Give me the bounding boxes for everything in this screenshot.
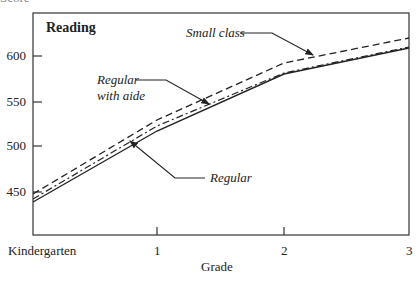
leader-small-class bbox=[240, 33, 313, 55]
x-tick-kindergarten: Kindergarten bbox=[8, 243, 76, 259]
x-axis-ticks bbox=[157, 227, 284, 235]
annotation-regular: Regular bbox=[210, 170, 252, 186]
x-axis-label: Grade bbox=[201, 259, 233, 275]
y-tick-600: 600 bbox=[7, 48, 27, 64]
annotation-small-class: Small class bbox=[186, 25, 245, 41]
annotation-regular-with-aide-line2: with aide bbox=[97, 88, 145, 104]
chart-canvas bbox=[0, 0, 419, 282]
x-tick-3: 3 bbox=[406, 243, 413, 259]
chart-title: Reading bbox=[46, 20, 96, 36]
x-tick-1: 1 bbox=[154, 243, 161, 259]
plot-frame bbox=[33, 13, 409, 235]
leader-regular bbox=[130, 141, 205, 178]
x-tick-2: 2 bbox=[281, 243, 288, 259]
annotation-regular-with-aide-line1: Regular bbox=[97, 72, 139, 88]
y-axis-ticks bbox=[33, 56, 42, 192]
y-tick-500: 500 bbox=[7, 138, 27, 154]
y-tick-450: 450 bbox=[7, 184, 27, 200]
y-axis-label-clipped: Score bbox=[0, 0, 30, 6]
leader-regular-with-aide bbox=[136, 80, 209, 104]
y-tick-550: 550 bbox=[7, 94, 27, 110]
